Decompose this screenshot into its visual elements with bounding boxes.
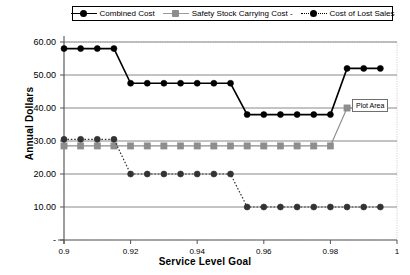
data-point-marker xyxy=(261,204,267,210)
data-point-marker xyxy=(94,46,100,52)
data-point-marker xyxy=(228,171,234,177)
data-point-marker xyxy=(94,143,100,149)
data-point-marker xyxy=(194,80,200,86)
chart-legend[interactable]: Combined Cost Safety Stock Carrying Cost… xyxy=(72,6,393,21)
diamond-marker-icon xyxy=(71,9,97,18)
data-point-marker xyxy=(211,171,217,177)
x-axis-tick-label: 0.96 xyxy=(256,247,272,256)
data-point-marker xyxy=(377,65,383,71)
y-axis-tick-label: 30.00 xyxy=(33,136,56,146)
legend-label-combined-cost: Combined Cost xyxy=(100,9,155,18)
data-point-marker xyxy=(144,171,150,177)
data-point-marker xyxy=(61,136,67,142)
data-point-marker xyxy=(311,143,317,149)
x-axis-tick-label: 0.98 xyxy=(323,247,339,256)
data-point-marker xyxy=(78,143,84,149)
data-point-marker xyxy=(261,143,267,149)
data-point-marker xyxy=(61,143,67,149)
legend-label-safety-stock-carrying-cost: Safety Stock Carrying Cost - xyxy=(192,9,293,18)
data-point-marker xyxy=(294,204,300,210)
data-point-marker xyxy=(277,112,283,118)
data-point-marker xyxy=(361,204,367,210)
data-point-marker xyxy=(327,143,333,149)
data-point-marker xyxy=(144,143,150,149)
data-point-marker xyxy=(178,80,184,86)
y-axis-tick-label: 10.00 xyxy=(33,202,56,212)
data-point-marker xyxy=(311,204,317,210)
circle-marker-icon xyxy=(301,9,327,18)
data-point-marker xyxy=(277,143,283,149)
chart-container: -10.0020.0030.0040.0050.0060.000.90.920.… xyxy=(0,0,410,275)
square-marker-icon xyxy=(163,9,189,18)
data-point-marker xyxy=(194,143,200,149)
data-point-marker xyxy=(78,46,84,52)
data-point-marker xyxy=(294,112,300,118)
legend-label-cost-of-lost-sales: Cost of Lost Sales xyxy=(330,9,395,18)
y-axis-tick-label: 50.00 xyxy=(33,70,56,80)
x-axis-tick-label: 0.9 xyxy=(58,247,70,256)
data-point-marker xyxy=(161,80,167,86)
data-point-marker xyxy=(61,46,67,52)
data-point-marker xyxy=(361,65,367,71)
legend-item-combined-cost[interactable]: Combined Cost xyxy=(67,9,159,18)
y-axis-tick-label: 40.00 xyxy=(33,103,56,113)
data-point-marker xyxy=(261,112,267,118)
legend-item-safety-stock-carrying-cost[interactable]: Safety Stock Carrying Cost - xyxy=(159,9,297,18)
data-point-marker xyxy=(327,112,333,118)
x-axis-tick-label: 1 xyxy=(395,247,400,256)
data-point-marker xyxy=(244,143,250,149)
y-axis-tick-label: 20.00 xyxy=(33,169,56,179)
data-point-marker xyxy=(377,204,383,210)
data-point-marker xyxy=(194,171,200,177)
x-axis-tick-label: 0.92 xyxy=(123,247,139,256)
y-axis-title: Annual Dollars xyxy=(24,69,35,179)
data-point-marker xyxy=(144,80,150,86)
data-point-marker xyxy=(344,204,350,210)
data-point-marker xyxy=(78,136,84,142)
y-axis-tick-label: - xyxy=(53,235,56,245)
data-point-marker xyxy=(277,204,283,210)
data-point-marker xyxy=(228,80,234,86)
data-point-marker xyxy=(94,136,100,142)
data-point-marker xyxy=(244,112,250,118)
data-point-marker xyxy=(311,112,317,118)
chart-plot[interactable]: -10.0020.0030.0040.0050.0060.000.90.920.… xyxy=(0,0,410,275)
data-point-marker xyxy=(344,105,350,111)
data-point-marker xyxy=(344,65,350,71)
data-point-marker xyxy=(211,143,217,149)
data-point-marker xyxy=(161,171,167,177)
data-point-marker xyxy=(161,143,167,149)
data-point-marker xyxy=(244,204,250,210)
x-axis-title: Service Level Goal xyxy=(0,256,410,267)
y-axis-tick-label: 60.00 xyxy=(33,37,56,47)
data-point-marker xyxy=(128,80,134,86)
data-point-marker xyxy=(128,143,134,149)
legend-item-cost-of-lost-sales[interactable]: Cost of Lost Sales xyxy=(297,9,399,18)
data-point-marker xyxy=(327,204,333,210)
plot-area-tooltip: Plot Area xyxy=(352,99,388,112)
data-point-marker xyxy=(177,143,183,149)
data-point-marker xyxy=(111,136,117,142)
data-point-marker xyxy=(227,143,233,149)
x-axis-tick-label: 0.94 xyxy=(189,247,205,256)
data-point-marker xyxy=(294,143,300,149)
data-point-marker xyxy=(178,171,184,177)
data-point-marker xyxy=(128,171,134,177)
data-point-marker xyxy=(111,46,117,52)
data-point-marker xyxy=(211,80,217,86)
